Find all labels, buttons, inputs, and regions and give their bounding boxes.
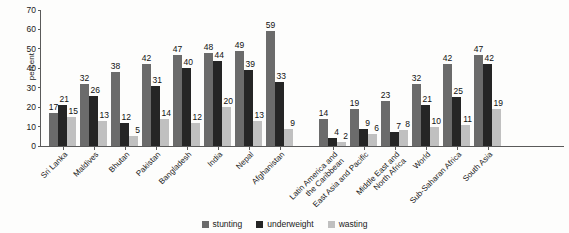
bar-wasting[interactable]: 14 xyxy=(160,119,169,146)
bar-wasting[interactable]: 20 xyxy=(222,107,231,146)
bar-underweight[interactable]: 21 xyxy=(421,105,430,146)
bar-group: 322110 xyxy=(410,10,441,146)
bar-stunting[interactable]: 47 xyxy=(173,55,182,146)
y-axis-tick: 50 xyxy=(12,45,36,53)
bar-wasting[interactable]: 6 xyxy=(368,134,377,146)
bar-wasting[interactable]: 10 xyxy=(430,127,439,146)
y-axis-tick: 40 xyxy=(12,64,36,72)
y-axis-tick: 30 xyxy=(12,84,36,92)
bar-value-label: 44 xyxy=(215,51,224,60)
bar-stunting[interactable]: 19 xyxy=(350,109,359,146)
bar-wasting[interactable]: 13 xyxy=(253,121,262,146)
bar-stunting[interactable]: 47 xyxy=(474,55,483,146)
legend-swatch-wasting xyxy=(328,221,335,228)
plot-area: 1721153226133812542311447401248442049391… xyxy=(41,10,564,146)
bar-group-bars: 322110 xyxy=(410,10,441,146)
bar-group: 322613 xyxy=(78,10,109,146)
bar-group-bars: 423114 xyxy=(140,10,171,146)
bar-wasting[interactable]: 5 xyxy=(129,136,138,146)
chart-legend: stuntingunderweightwasting xyxy=(0,219,569,229)
bar-value-label: 26 xyxy=(91,86,100,95)
legend-item-stunting[interactable]: stunting xyxy=(202,219,243,229)
bar-group: 172115 xyxy=(47,10,78,146)
bar-wasting[interactable]: 12 xyxy=(191,123,200,146)
legend-label: stunting xyxy=(213,219,243,229)
bar-value-label: 48 xyxy=(204,43,213,52)
bar-stunting[interactable]: 42 xyxy=(142,64,151,146)
bar-value-label: 12 xyxy=(122,113,131,122)
bar-underweight[interactable]: 42 xyxy=(483,64,492,146)
bar-stunting[interactable]: 23 xyxy=(381,101,390,146)
bar-underweight[interactable]: 9 xyxy=(359,129,368,146)
bar-stunting[interactable]: 59 xyxy=(266,31,275,146)
bar-stunting[interactable]: 17 xyxy=(49,113,58,146)
bar-stunting[interactable]: 42 xyxy=(443,64,452,146)
legend-label: wasting xyxy=(339,219,368,229)
bar-stunting[interactable]: 48 xyxy=(204,53,213,146)
bar-value-label: 42 xyxy=(142,54,151,63)
bar-wasting[interactable]: 9 xyxy=(284,129,293,146)
bar-value-label: 47 xyxy=(474,45,483,54)
bar-group-bars: 322613 xyxy=(78,10,109,146)
bar-stunting[interactable]: 38 xyxy=(111,72,120,146)
bar-group: 38125 xyxy=(109,10,140,146)
bar-group: 1442 xyxy=(317,10,348,146)
bar-underweight[interactable]: 7 xyxy=(390,132,399,146)
bar-wasting[interactable]: 13 xyxy=(98,121,107,146)
bar-wasting[interactable]: 15 xyxy=(67,117,76,146)
bar-underweight[interactable]: 33 xyxy=(275,82,284,146)
bar-underweight[interactable]: 40 xyxy=(182,68,191,146)
bar-underweight[interactable]: 26 xyxy=(89,96,98,147)
bar-value-label: 21 xyxy=(60,95,69,104)
bar-value-label: 9 xyxy=(290,119,295,128)
bar-value-label: 12 xyxy=(193,113,202,122)
y-axis-tick: 0 xyxy=(12,142,36,150)
legend-label: underweight xyxy=(267,219,313,229)
bar-group: 474219 xyxy=(472,10,503,146)
bar-underweight[interactable]: 12 xyxy=(120,123,129,146)
y-axis-tick: 60 xyxy=(12,25,36,33)
bar-group: 474012 xyxy=(171,10,202,146)
bar-underweight[interactable]: 39 xyxy=(244,70,253,146)
bar-group: 2378 xyxy=(379,10,410,146)
legend-item-underweight[interactable]: underweight xyxy=(256,219,313,229)
bar-value-label: 33 xyxy=(277,72,286,81)
bar-value-label: 59 xyxy=(266,21,275,30)
bar-underweight[interactable]: 25 xyxy=(452,97,461,146)
bar-value-label: 38 xyxy=(111,62,120,71)
bar-stunting[interactable]: 49 xyxy=(235,51,244,146)
legend-swatch-stunting xyxy=(202,221,209,228)
bar-value-label: 42 xyxy=(443,54,452,63)
bar-value-label: 42 xyxy=(485,54,494,63)
bar-underweight[interactable]: 44 xyxy=(213,61,222,146)
bar-wasting[interactable]: 11 xyxy=(461,125,470,146)
legend-item-wasting[interactable]: wasting xyxy=(328,219,368,229)
bar-value-label: 15 xyxy=(69,107,78,116)
legend-swatch-underweight xyxy=(256,221,263,228)
bar-value-label: 49 xyxy=(235,41,244,50)
y-axis-tick: 10 xyxy=(12,123,36,131)
bar-wasting[interactable]: 8 xyxy=(399,130,408,146)
bar-value-label: 32 xyxy=(412,74,421,83)
bar-underweight[interactable]: 4 xyxy=(328,138,337,146)
bar-underweight[interactable]: 21 xyxy=(58,105,67,146)
bar-group-bars: 172115 xyxy=(47,10,78,146)
y-axis-tick: 70 xyxy=(12,6,36,14)
bar-wasting[interactable]: 2 xyxy=(337,142,346,146)
bar-stunting[interactable]: 14 xyxy=(319,119,328,146)
bar-value-label: 40 xyxy=(184,58,193,67)
bar-stunting[interactable]: 32 xyxy=(80,84,89,146)
bar-value-label: 13 xyxy=(255,111,264,120)
bar-underweight[interactable]: 31 xyxy=(151,86,160,146)
bar-group: 1996 xyxy=(348,10,379,146)
bar-group-bars: 474012 xyxy=(171,10,202,146)
bar-value-label: 14 xyxy=(162,109,171,118)
y-axis-tick: 20 xyxy=(12,103,36,111)
bar-group: 484420 xyxy=(202,10,233,146)
bar-group-bars: 474219 xyxy=(472,10,503,146)
bar-value-label: 9 xyxy=(365,119,370,128)
bar-chart: percent 010203040506070 1721153226133812… xyxy=(0,0,569,233)
bar-stunting[interactable]: 32 xyxy=(412,84,421,146)
bar-wasting[interactable]: 19 xyxy=(492,109,501,146)
bar-value-label: 4 xyxy=(334,128,339,137)
